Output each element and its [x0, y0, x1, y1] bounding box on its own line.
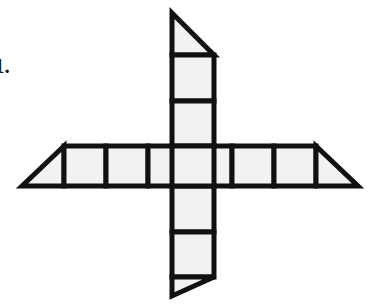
square-v-bottom-1: [172, 186, 214, 232]
cross-net-figure: [0, 0, 379, 306]
square-v-bottom-2: [172, 232, 214, 277]
square-v-top-1: [172, 101, 214, 146]
square-v-top-2: [172, 55, 214, 101]
triangle-bottom: [172, 277, 214, 296]
net-shape-group: [22, 13, 358, 296]
square-h-6: [274, 146, 316, 186]
square-center-overlay: [172, 146, 214, 186]
square-h-5: [232, 146, 274, 186]
square-h-2: [106, 146, 148, 186]
triangle-top: [172, 13, 214, 55]
triangle-left: [22, 146, 64, 186]
triangle-right: [316, 146, 358, 186]
figure-page: 1.: [0, 0, 379, 306]
square-h-1: [64, 146, 106, 186]
